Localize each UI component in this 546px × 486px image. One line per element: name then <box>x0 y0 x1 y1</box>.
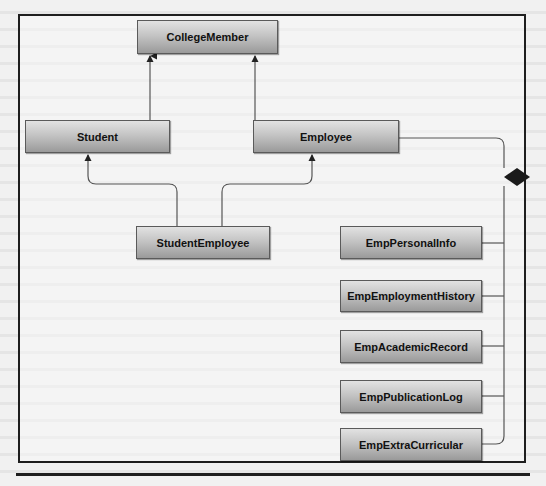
composition-diamond-icon <box>504 168 530 186</box>
class-emp-academic-record[interactable]: EmpAcademicRecord <box>340 330 482 363</box>
class-label: CollegeMember <box>167 31 249 43</box>
class-label: Student <box>77 131 118 143</box>
arrowhead-icon <box>309 154 316 161</box>
composition-bus <box>482 186 504 444</box>
generalization-studentemployee-employee <box>222 155 312 226</box>
class-student[interactable]: Student <box>25 120 170 153</box>
arrowhead-icon <box>85 154 92 161</box>
class-label: StudentEmployee <box>157 237 250 249</box>
class-student-employee[interactable]: StudentEmployee <box>136 226 270 259</box>
class-label: EmpExtraCurricular <box>359 439 463 451</box>
class-label: EmpPersonalInfo <box>366 237 456 249</box>
arrowhead-icon <box>252 55 259 62</box>
class-employee[interactable]: Employee <box>253 120 399 153</box>
class-label: EmpAcademicRecord <box>354 341 468 353</box>
class-emp-personal-info[interactable]: EmpPersonalInfo <box>340 226 482 259</box>
class-emp-extra-curricular[interactable]: EmpExtraCurricular <box>340 428 482 461</box>
class-emp-employment-history[interactable]: EmpEmploymentHistory <box>340 280 482 312</box>
composition-employee-line <box>399 138 504 168</box>
class-label: EmpPublicationLog <box>359 391 462 403</box>
class-label: EmpEmploymentHistory <box>347 290 475 302</box>
class-label: Employee <box>300 131 352 143</box>
arrowhead-icon <box>147 55 154 62</box>
class-emp-publication-log[interactable]: EmpPublicationLog <box>340 380 482 413</box>
class-college-member[interactable]: CollegeMember <box>137 20 278 54</box>
generalization-studentemployee-student <box>88 155 177 226</box>
